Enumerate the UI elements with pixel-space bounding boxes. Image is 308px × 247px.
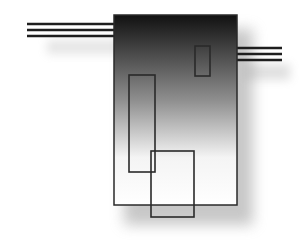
left-connector-lines — [27, 24, 114, 36]
main-block — [114, 15, 237, 205]
diagram-canvas — [0, 0, 308, 247]
diagram-svg — [0, 0, 308, 247]
